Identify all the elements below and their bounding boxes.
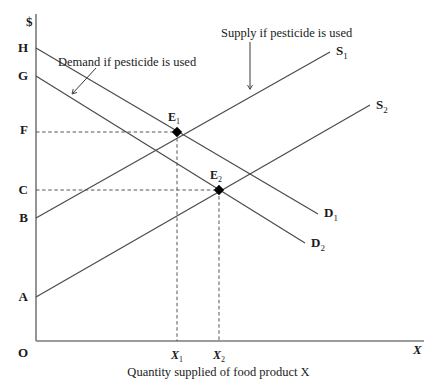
curve-label-sub: 2 [383, 105, 388, 115]
equilibrium-label-e1: E1 [168, 111, 180, 126]
x-axis-tick-x1: X1 [164, 349, 190, 364]
equilibrium-label-letter: E [168, 110, 176, 124]
y-axis-title: $ [26, 15, 33, 28]
x-axis-tick-x2: X2 [206, 349, 232, 364]
curve-label-letter: D [324, 205, 333, 220]
y-axis-value-b: B [8, 211, 28, 224]
curve-label-d1: D1 [324, 206, 338, 223]
curves-group [36, 48, 370, 297]
y-axis-value-c: C [8, 183, 28, 196]
y-axis-value-f: F [8, 123, 28, 136]
supply-curve-s2 [36, 105, 370, 297]
curve-label-sub: 2 [320, 243, 325, 253]
equilibrium-label-sub: 2 [218, 175, 222, 184]
x-tick-sub: 2 [221, 355, 225, 364]
x-axis-title: X [413, 343, 422, 356]
supply-annotation-text: Supply if pesticide is used [221, 27, 352, 40]
x-tick-sub: 1 [179, 355, 183, 364]
y-axis-value-a: A [8, 290, 28, 303]
curve-label-letter: D [311, 235, 320, 250]
demand-annotation-text: Demand if pesticide is used [58, 56, 196, 69]
y-axis-value-g: G [8, 69, 28, 82]
x-tick-letter: X [171, 348, 179, 362]
y-axis-value-h: H [8, 41, 28, 54]
curve-label-s2: S2 [376, 98, 388, 115]
origin-label: O [8, 346, 28, 359]
equilibrium-label-e2: E2 [210, 169, 222, 184]
curve-label-sub: 1 [333, 213, 338, 223]
equilibrium-label-sub: 1 [176, 117, 180, 126]
curve-label-s1: S1 [336, 44, 348, 61]
equilibrium-guide-lines [36, 132, 219, 341]
x-tick-letter: X [213, 348, 221, 362]
curve-label-sub: 1 [343, 51, 348, 61]
figure-caption: Quantity supplied of food product X [0, 366, 437, 379]
equilibrium-label-letter: E [210, 168, 218, 182]
demand-curve-d2 [36, 76, 305, 243]
supply-demand-diagram: $ O H G F C B A X1 X2 X S1 S2 D1 D2 E1 E… [0, 0, 437, 389]
curve-label-d2: D2 [311, 236, 325, 253]
